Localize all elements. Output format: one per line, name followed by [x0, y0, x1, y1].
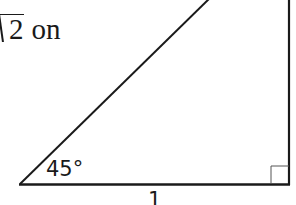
angle-label-45-degrees: 45° — [46, 157, 83, 181]
square-root-radical: 2 — [0, 14, 24, 43]
right-angle-marker-icon — [271, 166, 289, 184]
radicand: 2 — [9, 13, 24, 45]
sqrt-two-text-fragment: 2on — [0, 12, 61, 46]
trailing-text: on — [32, 13, 61, 45]
triangle-figure: 2on 45° 1 — [0, 0, 296, 205]
base-length-label: 1 — [148, 188, 161, 205]
